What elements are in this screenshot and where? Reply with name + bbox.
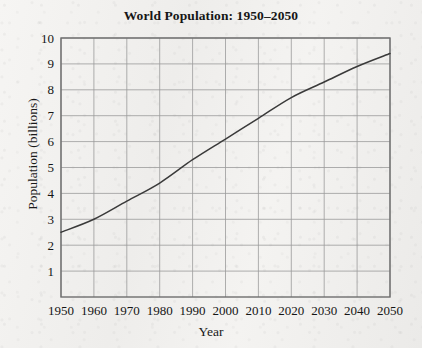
y-tick-label: 8 <box>48 82 55 97</box>
x-tick-label: 1950 <box>48 303 74 318</box>
x-tick-label: 1960 <box>81 303 107 318</box>
y-tick-label: 6 <box>48 134 55 149</box>
world-population-chart: World Population: 1950–2050 Population (… <box>0 0 422 348</box>
y-tick-label: 9 <box>48 56 55 71</box>
y-tick-labels: 12345678910 <box>41 31 55 279</box>
x-tick-label: 2000 <box>213 303 239 318</box>
x-tick-label: 1970 <box>114 303 140 318</box>
y-tick-label: 4 <box>48 186 55 201</box>
x-tick-label: 1980 <box>147 303 173 318</box>
y-tick-label: 3 <box>48 212 55 227</box>
x-axis-title: Year <box>0 324 422 340</box>
x-tick-label: 2050 <box>377 303 403 318</box>
x-tick-label: 1990 <box>180 303 206 318</box>
x-tick-labels: 1950196019701980199020002010202020302040… <box>48 303 403 318</box>
y-tick-label: 10 <box>41 31 54 46</box>
y-tick-label: 5 <box>48 160 55 175</box>
x-tick-label: 2020 <box>278 303 304 318</box>
x-tick-label: 2030 <box>311 303 337 318</box>
x-tick-label: 2010 <box>245 303 271 318</box>
plot-area: 12345678910 1950196019701980199020002010… <box>0 0 422 348</box>
y-tick-label: 2 <box>48 238 55 253</box>
x-tick-label: 2040 <box>344 303 370 318</box>
grid-lines <box>61 38 390 297</box>
y-tick-label: 7 <box>48 108 55 123</box>
y-tick-label: 1 <box>48 264 55 279</box>
